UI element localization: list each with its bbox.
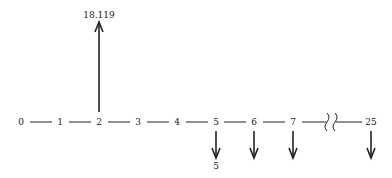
inflow-arrow-icon: [95, 22, 103, 112]
outflow-arrows: [212, 131, 375, 158]
outflow-arrow-icon: [250, 131, 258, 158]
period-label-6: 6: [251, 117, 257, 127]
period-label-0: 0: [18, 117, 24, 127]
timeline-break-icon: [325, 113, 337, 131]
period-label-1: 1: [57, 117, 63, 127]
period-label-3: 3: [135, 117, 141, 127]
period-label-4: 4: [174, 117, 180, 127]
outflow-arrow-icon: [212, 131, 220, 158]
period-label-5: 5: [213, 117, 219, 127]
inflow-value: 18.119: [83, 10, 115, 20]
period-label-2: 2: [96, 117, 102, 127]
period-label-7: 7: [290, 117, 296, 127]
outflow-arrow-icon: [289, 131, 297, 158]
outflow-value: 5: [213, 161, 219, 171]
period-label-25: 25: [365, 117, 377, 127]
cash-flow-diagram: 0 1 2 3 4 5 6 7 25 18.119 5: [0, 0, 392, 178]
outflow-arrow-icon: [367, 131, 375, 158]
